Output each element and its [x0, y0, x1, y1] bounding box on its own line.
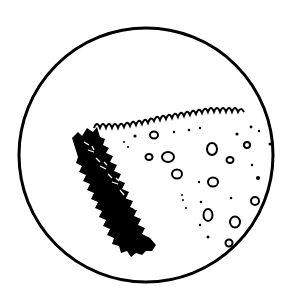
bread-illustration [0, 0, 291, 300]
